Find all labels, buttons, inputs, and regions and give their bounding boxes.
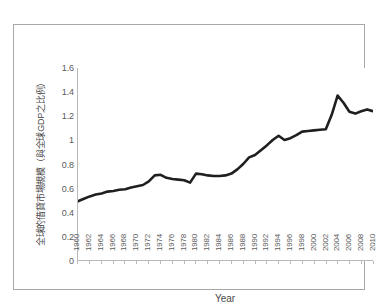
plot-area — [77, 68, 373, 261]
x-axis-tick-label: 1992 — [260, 262, 272, 290]
x-axis-tick-label-text: 1990 — [249, 234, 260, 262]
x-axis-tick-label-text: 1984 — [213, 234, 224, 262]
x-axis-tick-label-text: 2008 — [355, 234, 366, 262]
line-series-path — [78, 96, 373, 202]
x-axis-tick-label-text: 1968 — [118, 234, 129, 262]
x-axis-tick-label-text: 2010 — [367, 234, 378, 262]
x-axis-tick-label-text: 1978 — [178, 234, 189, 262]
line-series-svg — [78, 68, 373, 260]
y-axis-tick-label: 0.6 — [50, 184, 74, 194]
x-axis-tick-label: 1972 — [142, 262, 154, 290]
x-axis-tick-label-text: 1960 — [71, 234, 82, 262]
x-axis-tick-label: 1982 — [201, 262, 213, 290]
x-axis-tick-label-text: 1996 — [284, 234, 295, 262]
y-axis-tick-label: 1.4 — [50, 87, 74, 97]
x-axis-tick-label-text: 1998 — [296, 234, 307, 262]
x-axis-tick-label: 1994 — [272, 262, 284, 290]
x-axis-tick-label: 2006 — [343, 262, 355, 290]
y-axis-title-text: 全球的借貸市場規模（與全球GDP之比例） — [34, 59, 48, 265]
y-axis-tick-label: 1.2 — [50, 111, 74, 121]
x-axis-tick-label: 1976 — [166, 262, 178, 290]
x-axis-tick-label: 1988 — [237, 262, 249, 290]
x-axis-tick-label: 2008 — [355, 262, 367, 290]
x-axis-tick-label-text: 2000 — [308, 234, 319, 262]
x-axis-tick-label: 1978 — [178, 262, 190, 290]
x-axis-tick-label-text: 2006 — [343, 234, 354, 262]
y-axis-tick-label: 1 — [50, 135, 74, 145]
x-axis-tick-label: 2004 — [331, 262, 343, 290]
x-axis-tick-label-text: 1992 — [260, 234, 271, 262]
x-axis-tick-label-text: 1994 — [272, 234, 283, 262]
figure-caption — [13, 294, 365, 308]
x-axis-tick-label: 1964 — [95, 262, 107, 290]
x-axis-tick-label: 1968 — [118, 262, 130, 290]
x-axis-tick-label-text: 1964 — [95, 234, 106, 262]
x-axis-tick-label: 1974 — [154, 262, 166, 290]
x-axis-tick-label: 1990 — [249, 262, 261, 290]
x-axis-tick-label-text: 2002 — [320, 234, 331, 262]
x-axis-tick-label: 1986 — [225, 262, 237, 290]
x-axis-tick-label-text: 1982 — [201, 234, 212, 262]
x-axis-tick-label: 1980 — [189, 262, 201, 290]
x-axis-tick-label: 1962 — [83, 262, 95, 290]
x-axis-tick-label-text: 1980 — [189, 234, 200, 262]
x-axis-tick-label-text: 1966 — [107, 234, 118, 262]
chart-frame: 全球的借貸市場規模（與全球GDP之比例） 1.61.41.210.80.60.4… — [13, 24, 365, 290]
x-axis-tick-label-text: 1962 — [83, 234, 94, 262]
y-axis-title: 全球的借貸市場規模（與全球GDP之比例） — [34, 59, 48, 265]
x-axis-tick-label: 2010 — [367, 262, 379, 290]
x-axis-tick-label: 1996 — [284, 262, 296, 290]
x-axis-tick-label-text: 1988 — [237, 234, 248, 262]
x-axis-tick-label: 1970 — [130, 262, 142, 290]
y-axis-tick-label: 0.4 — [50, 208, 74, 218]
x-axis-tick-label-text: 1970 — [130, 234, 141, 262]
x-axis-tick-label-text: 1972 — [142, 234, 153, 262]
x-axis-tick-labels: 1960196219641966196819701972197419761978… — [77, 262, 373, 290]
x-axis-tick-label-text: 1976 — [166, 234, 177, 262]
x-axis-tick-label-text: 1974 — [154, 234, 165, 262]
x-axis-tick-label: 2000 — [308, 262, 320, 290]
x-axis-tick-label-text: 2004 — [331, 234, 342, 262]
x-axis-tick-label: 1960 — [71, 262, 83, 290]
x-axis-tick-label: 1984 — [213, 262, 225, 290]
x-axis-tick-label: 2002 — [320, 262, 332, 290]
x-axis-tick-label-text: 1986 — [225, 234, 236, 262]
x-axis-tick-label: 1998 — [296, 262, 308, 290]
y-axis-tick-label: 0.8 — [50, 160, 74, 170]
y-axis-tick-label: 1.6 — [50, 63, 74, 73]
x-axis-tick-label: 1966 — [107, 262, 119, 290]
